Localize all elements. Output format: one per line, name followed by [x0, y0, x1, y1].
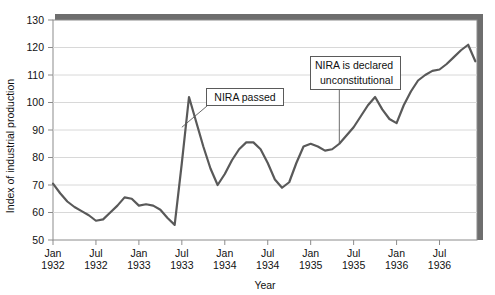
y-tick-label-110: 110	[27, 69, 44, 81]
x-tick-label-year-7: 1935	[342, 259, 366, 271]
y-tick-label-50: 50	[32, 234, 44, 246]
x-tick-label-year-5: 1934	[256, 259, 280, 271]
annotation-nira-unconstitutional: NIRA is declared unconstitutional	[311, 57, 401, 90]
x-tick-label-year-0: 1932	[41, 259, 65, 271]
x-tick-label-year-2: 1933	[127, 259, 151, 271]
x-tick-label-month-2: Jan	[130, 247, 147, 259]
x-tick-label-year-4: 1934	[213, 259, 237, 271]
annotation-label-nira-passed: NIRA passed	[214, 91, 275, 103]
x-tick-label-month-5: Jul	[261, 247, 274, 259]
x-tick-label-year-6: 1935	[299, 259, 323, 271]
industrial-production-line-chart: 5060708090100110120130 Jan1932Jul1932Jan…	[0, 0, 495, 295]
x-tick-label-year-3: 1933	[170, 259, 194, 271]
x-tick-label-month-9: Jul	[433, 247, 446, 259]
x-tick-label-month-0: Jan	[45, 247, 62, 259]
y-tick-label-80: 80	[32, 151, 44, 163]
annotation-label-nira-unconstitutional-line2: unconstitutional	[320, 74, 393, 86]
y-tick-label-70: 70	[32, 179, 44, 191]
x-tick-label-month-8: Jan	[388, 247, 405, 259]
y-tick-label-60: 60	[32, 206, 44, 218]
x-tick-label-year-8: 1936	[385, 259, 409, 271]
x-tick-label-month-7: Jul	[347, 247, 360, 259]
chart-figure: 5060708090100110120130 Jan1932Jul1932Jan…	[0, 0, 495, 295]
annotation-label-nira-unconstitutional-line1: NIRA is declared	[315, 59, 393, 71]
x-tick-label-year-9: 1936	[428, 259, 452, 271]
x-axis-title: Year	[254, 279, 276, 291]
frame-right-shadow	[477, 14, 483, 240]
frame-top-shadow	[55, 14, 481, 20]
x-tick-label-month-1: Jul	[89, 247, 102, 259]
x-axis: Jan1932Jul1932Jan1933Jul1933Jan1934Jul19…	[41, 240, 451, 271]
y-tick-label-120: 120	[26, 41, 44, 53]
x-tick-label-month-3: Jul	[175, 247, 188, 259]
y-tick-label-130: 130	[26, 14, 44, 26]
x-tick-label-year-1: 1932	[84, 259, 108, 271]
annotation-nira-passed: NIRA passed	[207, 89, 284, 106]
y-axis: 5060708090100110120130	[26, 14, 53, 246]
y-tick-label-90: 90	[32, 124, 44, 136]
y-tick-label-100: 100	[26, 96, 44, 108]
y-axis-title: Index of industrial production	[4, 79, 16, 213]
x-tick-label-month-4: Jan	[216, 247, 233, 259]
x-tick-label-month-6: Jan	[302, 247, 319, 259]
